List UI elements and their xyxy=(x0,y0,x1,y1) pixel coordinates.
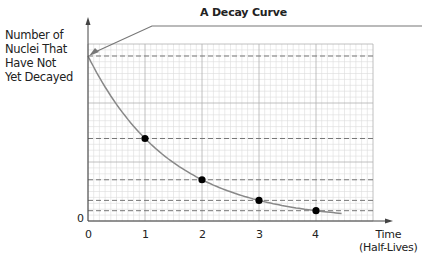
data-point xyxy=(141,135,148,142)
x-tick-0: 0 xyxy=(85,228,92,241)
minor-grid xyxy=(88,44,373,221)
data-point xyxy=(255,197,262,204)
y-tick-zero: 0 xyxy=(77,212,84,225)
x-tick-1: 1 xyxy=(142,228,149,241)
x-axis-title: Time (Half-Lives) xyxy=(359,228,418,254)
pointer-arrowhead xyxy=(89,48,99,56)
x-title-line: Time xyxy=(359,228,418,241)
x-title-line: (Half-Lives) xyxy=(359,241,418,254)
x-tick-2: 2 xyxy=(199,228,206,241)
x-tick-3: 3 xyxy=(256,228,263,241)
data-point xyxy=(312,207,319,214)
decay-chart xyxy=(0,0,422,260)
x-axis-arrowhead xyxy=(385,219,393,224)
y-axis-arrowhead xyxy=(86,17,91,25)
data-point xyxy=(198,176,205,183)
x-tick-4: 4 xyxy=(312,228,319,241)
